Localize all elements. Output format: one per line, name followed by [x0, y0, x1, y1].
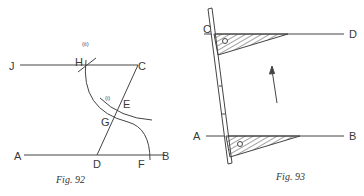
direction-arrow	[272, 70, 277, 103]
label-c: C	[138, 60, 146, 72]
label-b: B	[349, 130, 356, 142]
label-h: H	[75, 56, 83, 68]
fig-92-labels: J H C A D F B E G (i) (ii) Fig. 92	[9, 41, 169, 185]
label-arc-i: (i)	[105, 95, 110, 101]
fig-92	[20, 58, 165, 160]
set-square-lower[interactable]	[226, 136, 300, 157]
label-g: G	[101, 116, 110, 128]
caption-fig-93: Fig. 93	[275, 171, 305, 182]
label-arc-ii: (ii)	[82, 41, 89, 47]
label-d: D	[93, 158, 101, 170]
set-square-hole	[223, 39, 228, 44]
set-square-upper[interactable]	[214, 34, 288, 55]
label-c: C	[203, 23, 211, 35]
figure-canvas: J H C A D F B E G (i) (ii) Fig. 92 C	[0, 0, 364, 196]
label-e: E	[123, 98, 130, 110]
label-a: A	[14, 150, 22, 162]
set-square-hole	[238, 142, 243, 147]
label-j: J	[9, 60, 15, 72]
label-d: D	[349, 28, 357, 40]
line-dc	[97, 65, 138, 155]
label-f: F	[138, 158, 145, 170]
caption-fig-92: Fig. 92	[55, 174, 85, 185]
label-a: A	[193, 130, 201, 142]
fig-93	[204, 8, 344, 164]
arrow-head-icon	[270, 66, 275, 74]
label-b: B	[162, 150, 169, 162]
